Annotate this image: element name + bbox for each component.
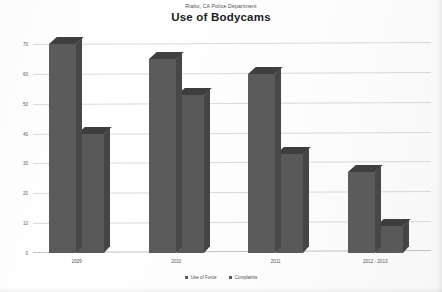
bar-side-face — [176, 52, 182, 253]
chart-plot-area: 010203040506070 2009201020112012 - 2013 — [33, 44, 431, 253]
legend-swatch-icon — [185, 276, 189, 280]
bar-front-face — [49, 44, 76, 253]
page-edge-shadow-right — [436, 0, 442, 292]
bar-side-face — [275, 67, 281, 253]
y-axis-tick-label: 10 — [23, 221, 28, 226]
bar-group: 2011 — [248, 44, 303, 253]
x-axis-category-label: 2009 — [49, 259, 104, 264]
legend-item[interactable]: Complaints — [229, 275, 258, 280]
bar-front-face — [348, 172, 375, 253]
bar-side-face — [204, 88, 210, 253]
bar-use-of-force — [248, 74, 275, 253]
y-axis-tick-label: 30 — [23, 161, 28, 166]
scanned-page: Rialto, CA Police Department Use of Body… — [0, 0, 442, 292]
y-axis-tick-label: 70 — [23, 42, 28, 47]
legend-item[interactable]: Use of Force — [185, 275, 217, 280]
bar-group: 2009 — [49, 44, 104, 253]
bar-front-face — [248, 74, 275, 253]
legend-label: Use of Force — [191, 275, 217, 280]
y-axis-tick-label: 20 — [23, 191, 28, 196]
x-axis-category-label: 2012 - 2013 — [348, 259, 403, 264]
y-axis-tick-label: 60 — [23, 71, 28, 76]
legend-label: Complaints — [235, 275, 258, 280]
bar-group: 2010 — [149, 44, 204, 253]
page-edge-shadow-bottom — [0, 287, 442, 292]
bar-side-face — [375, 166, 381, 253]
y-axis-tick-label: 0 — [25, 251, 28, 256]
bar-side-face — [76, 37, 82, 253]
y-axis-tick-label: 40 — [23, 131, 28, 136]
bar-group: 2012 - 2013 — [348, 44, 403, 253]
x-axis-category-label: 2010 — [149, 259, 204, 264]
bar-side-face — [303, 148, 309, 253]
chart-legend: Use of ForceComplaints — [0, 275, 442, 280]
bar-use-of-force — [49, 44, 76, 253]
bar-front-face — [149, 59, 176, 253]
bar-use-of-force — [348, 172, 375, 253]
x-axis-category-label: 2011 — [248, 259, 303, 264]
chart-title: Use of Bodycams — [0, 11, 442, 23]
bar-side-face — [403, 219, 409, 253]
bar-side-face — [104, 127, 110, 253]
y-axis-tick-label: 50 — [23, 101, 28, 106]
legend-swatch-icon — [229, 276, 233, 280]
bar-use-of-force — [149, 59, 176, 253]
chart-subtitle: Rialto, CA Police Department — [0, 3, 442, 9]
